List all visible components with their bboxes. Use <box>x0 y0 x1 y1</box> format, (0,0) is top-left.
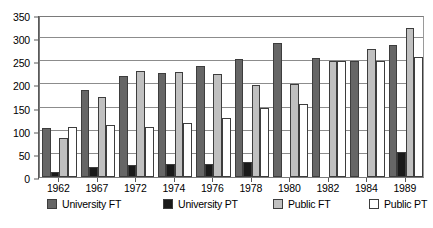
bar-public-ft-1978 <box>252 85 261 177</box>
bar-public-pt-1974 <box>183 123 192 177</box>
bar-chart: 050100150200250300350 196219671972197419… <box>0 0 433 228</box>
bar-university-pt-1962 <box>51 172 60 177</box>
legend-label: Public FT <box>288 199 331 210</box>
y-tick-label: 200 <box>13 81 30 92</box>
bar-university-ft-1984 <box>350 61 359 177</box>
bar-group-1976 <box>194 17 233 177</box>
x-tick-label-1980: 1980 <box>278 183 301 194</box>
bar-public-pt-1978 <box>260 108 269 177</box>
x-tick-label-1967: 1967 <box>85 183 108 194</box>
bar-group-1967 <box>79 17 118 177</box>
bar-group-1989 <box>387 17 425 177</box>
bar-public-pt-1984 <box>376 61 385 177</box>
bar-university-ft-1974 <box>158 73 167 177</box>
legend-swatch-icon <box>369 199 379 209</box>
plot-area <box>39 16 424 178</box>
y-tick-label: 100 <box>13 127 30 138</box>
legend-item-public-ft[interactable]: Public FT <box>273 197 331 211</box>
legend-swatch-icon <box>163 199 173 209</box>
x-tick-label-1989: 1989 <box>393 183 416 194</box>
x-axis: 1962196719721974197619781980198219841989 <box>39 178 424 198</box>
bar-university-ft-1980 <box>273 43 282 177</box>
bar-group-1980 <box>271 17 310 177</box>
bar-university-pt-1967 <box>89 167 98 177</box>
bar-university-ft-1972 <box>119 76 128 177</box>
x-tick-label-1982: 1982 <box>316 183 339 194</box>
bar-group-1984 <box>348 17 387 177</box>
bar-public-pt-1967 <box>106 125 115 177</box>
bar-public-ft-1967 <box>98 97 107 177</box>
bar-public-pt-1989 <box>414 57 423 177</box>
chart-legend: University FTUniversity PTPublic FTPubli… <box>39 197 424 213</box>
bar-university-ft-1989 <box>389 45 398 177</box>
bar-university-pt-1978 <box>243 162 252 177</box>
bar-public-ft-1984 <box>367 49 376 177</box>
bar-group-1982 <box>310 17 349 177</box>
legend-label: University PT <box>178 199 238 210</box>
legend-item-university-pt[interactable]: University PT <box>163 197 238 211</box>
bar-public-pt-1982 <box>337 61 346 177</box>
y-tick-label: 350 <box>13 12 30 23</box>
bar-university-pt-1974 <box>166 164 175 177</box>
bar-public-pt-1972 <box>145 127 154 177</box>
bar-public-ft-1972 <box>136 71 145 177</box>
y-tick-label: 300 <box>13 35 30 46</box>
legend-swatch-icon <box>47 199 57 209</box>
legend-swatch-icon <box>273 199 283 209</box>
y-tick-label: 50 <box>19 151 30 162</box>
bar-group-1978 <box>233 17 272 177</box>
bar-public-ft-1989 <box>406 28 415 177</box>
x-tick-label-1984: 1984 <box>355 183 378 194</box>
bar-public-ft-1976 <box>213 74 222 177</box>
bar-university-pt-1976 <box>205 164 214 177</box>
y-tick-label: 0 <box>24 174 30 185</box>
bar-public-ft-1974 <box>175 72 184 177</box>
bar-public-pt-1976 <box>222 118 231 177</box>
legend-label: University FT <box>62 199 121 210</box>
bar-public-pt-1962 <box>68 127 77 177</box>
x-tick-label-1978: 1978 <box>239 183 262 194</box>
legend-label: Public PT <box>384 199 427 210</box>
bar-university-ft-1982 <box>312 58 321 177</box>
bar-university-pt-1989 <box>397 152 406 177</box>
y-axis: 050100150200250300350 <box>0 16 39 179</box>
legend-item-university-ft[interactable]: University FT <box>47 197 121 211</box>
bar-university-ft-1978 <box>235 59 244 177</box>
legend-item-public-pt[interactable]: Public PT <box>369 197 427 211</box>
bar-group-1972 <box>117 17 156 177</box>
bar-group-1962 <box>40 17 79 177</box>
bar-university-ft-1967 <box>81 90 90 177</box>
bar-public-pt-1980 <box>299 104 308 177</box>
x-tick-label-1962: 1962 <box>47 183 70 194</box>
x-tick-label-1974: 1974 <box>162 183 185 194</box>
bar-group-1974 <box>156 17 195 177</box>
y-tick-label: 150 <box>13 104 30 115</box>
bar-university-pt-1972 <box>128 165 137 177</box>
bar-public-ft-1980 <box>290 84 299 177</box>
bar-university-ft-1976 <box>196 66 205 177</box>
bar-university-ft-1962 <box>42 128 51 177</box>
bar-public-ft-1962 <box>59 138 68 177</box>
x-tick-label-1976: 1976 <box>201 183 224 194</box>
bar-public-ft-1982 <box>329 61 338 177</box>
y-tick-label: 250 <box>13 58 30 69</box>
x-tick-label-1972: 1972 <box>124 183 147 194</box>
